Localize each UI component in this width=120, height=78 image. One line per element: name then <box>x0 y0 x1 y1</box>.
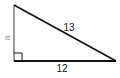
side-a-label: a <box>2 35 12 40</box>
triangle-diagram: a 13 12 <box>0 0 120 78</box>
hypotenuse-line <box>14 5 116 61</box>
hypotenuse-label: 13 <box>63 22 75 33</box>
base-label: 12 <box>56 63 68 74</box>
right-angle-marker <box>14 53 22 61</box>
